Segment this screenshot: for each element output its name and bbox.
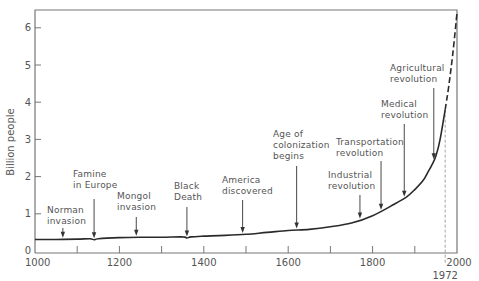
- annotation-text: Norman: [47, 205, 84, 215]
- annotation-age-of-colonization-begins: Age ofcolonizationbegins: [273, 129, 330, 229]
- y-axis: 0123456: [25, 22, 41, 256]
- y-axis-label: Billion people: [5, 108, 16, 176]
- y-tick-label: 5: [25, 60, 31, 71]
- population-curve: [35, 13, 457, 240]
- annotation-famine-in-europe: Faminein Europe: [73, 169, 118, 238]
- arrow-down-icon: [240, 227, 244, 233]
- annotation-text: discovered: [222, 186, 273, 196]
- y-tick-label: 4: [25, 97, 31, 108]
- arrow-down-icon: [379, 204, 383, 210]
- annotation-black-death: BlackDeath: [174, 181, 202, 236]
- annotation-text: Transportation: [335, 137, 404, 147]
- arrow-down-icon: [358, 213, 362, 219]
- annotation-text: revolution: [390, 74, 437, 84]
- population-chart: 0123456 100012001400160018002000 1972 No…: [0, 0, 479, 281]
- arrow-down-icon: [185, 230, 189, 236]
- annotation-industrial-revolution: Industrialrevolution: [328, 170, 375, 219]
- arrow-down-icon: [61, 232, 65, 238]
- annotation-text: revolution: [381, 110, 428, 120]
- annotation-text: Agricultural: [390, 63, 445, 73]
- arrow-down-icon: [134, 230, 138, 236]
- annotation-text: in Europe: [73, 180, 118, 190]
- projection-line: [445, 13, 457, 110]
- arrow-down-icon: [402, 191, 406, 197]
- y-tick-label: 2: [25, 171, 31, 182]
- arrow-down-icon: [294, 223, 298, 229]
- x-tick-label: 1000: [25, 257, 50, 268]
- annotation-mongol-invasion: Mongolinvasion: [117, 191, 156, 236]
- annotation-norman-invasion: Normaninvasion: [47, 205, 86, 238]
- x-axis: 100012001400160018002000: [25, 246, 472, 268]
- annotation-text: invasion: [47, 216, 86, 226]
- annotation-text: America: [222, 175, 261, 185]
- x-tick-label: 2000: [446, 257, 471, 268]
- y-tick-label: 0: [25, 245, 31, 256]
- annotation-text: Industrial: [328, 170, 372, 180]
- y-tick-label: 1: [25, 208, 31, 219]
- annotation-text: invasion: [117, 202, 156, 212]
- x-tick-label: 1400: [191, 257, 216, 268]
- event-annotations: NormaninvasionFaminein EuropeMongolinvas…: [47, 63, 445, 238]
- annotation-text: begins: [273, 151, 304, 161]
- annotation-america-discovered: Americadiscovered: [222, 175, 273, 233]
- y-tick-label: 6: [25, 22, 31, 33]
- annotation-text: Medical: [381, 99, 417, 109]
- x-tick-label: 1200: [107, 257, 132, 268]
- arrow-down-icon: [92, 232, 96, 238]
- annotation-text: colonization: [273, 140, 330, 150]
- annotation-text: Age of: [273, 129, 304, 139]
- annotation-text: Black: [174, 181, 200, 191]
- x-tick-label: 1800: [360, 257, 385, 268]
- plot-frame: [35, 10, 457, 253]
- annotation-text: revolution: [328, 181, 375, 191]
- annotation-text: Famine: [73, 169, 107, 179]
- annotation-text: Death: [174, 192, 202, 202]
- reference-year-label: 1972: [432, 270, 457, 281]
- reference-line-1972: 1972: [432, 110, 457, 281]
- annotation-text: revolution: [336, 148, 383, 158]
- annotation-text: Mongol: [117, 191, 151, 201]
- x-tick-label: 1600: [275, 257, 300, 268]
- y-tick-label: 3: [25, 134, 31, 145]
